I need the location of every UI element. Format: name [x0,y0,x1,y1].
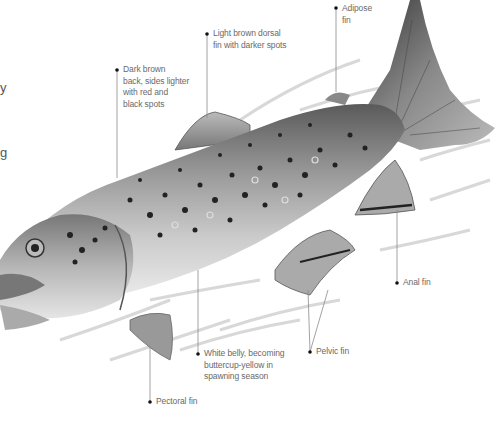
pectoral-fin [130,313,173,360]
label-anal-fin: Anal fin [403,277,431,289]
label-back-coloration: Dark brown back, sides lighter with red … [123,64,189,110]
label-dorsal-fin: Light brown dorsal fin with darker spots [213,28,287,51]
label-adipose-fin: Adipose fin [342,3,372,26]
trout-head [0,214,133,318]
trout-diagram: y g [0,0,497,424]
label-belly: White belly, becoming buttercup-yellow i… [204,348,284,383]
pelvic-fin [275,230,355,295]
adipose-fin [325,92,350,105]
label-pelvic-fin: Pelvic fin [316,346,349,358]
label-pectoral-fin: Pectoral fin [156,396,197,408]
